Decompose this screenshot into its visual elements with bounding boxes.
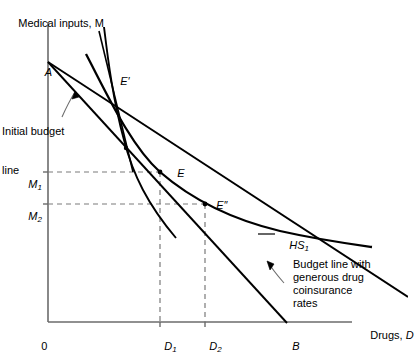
initial-budget-annotation-line1: Initial budget [2,125,64,138]
x-axis-title-var: D [403,329,414,341]
point-a-label: A [33,53,52,92]
initial-budget-leader-group [62,91,79,117]
point-e-prime-marks: ′ [128,75,131,87]
point-b-text: B [292,340,299,352]
generous-budget-annotation-line4: rates [293,297,401,310]
point-e-text: E [177,167,184,179]
y-axis-title-text: Medical inputs, M [18,17,104,29]
y-tick-label-m2: M2 [16,197,42,239]
generous-budget-annotation: Budget line with generous drug coinsuran… [293,258,401,310]
point-e-label: E [165,154,185,193]
x-tick-d1-sub: 1 [172,345,176,354]
point-e-double-prime-marks: ″ [224,199,228,211]
indifference-curve-hs0 [104,27,176,238]
point-e-double-prime-label: E″ [204,186,228,225]
point-e-prime-text: E [120,75,127,87]
point-b-label: B [280,327,300,356]
point-a-text: A [45,66,52,78]
generous-budget-annotation-line3: coinsurance [293,284,401,297]
marker-point-e [158,170,163,175]
reference-lines-group [48,172,205,322]
y-tick-m2-sub: 2 [37,215,41,224]
x-tick-label-d1: D1 [152,327,177,356]
y-tick-m1-sub: 1 [37,183,41,192]
origin-label: 0 [29,327,47,356]
point-e-double-prime-text: E [216,199,223,211]
x-tick-d1-base: D [164,340,172,352]
generous-budget-annotation-line2: generous drug [293,271,401,284]
origin-text: 0 [41,340,47,352]
marker-point-e-prime [124,146,128,150]
hs1-sub: 1 [305,244,309,253]
x-tick-label-d2: D2 [197,327,222,356]
y-axis-title: Medical inputs, M [6,4,104,43]
x-axis-title: Drugs, D [358,316,414,355]
generous-budget-annotation-line1: Budget line with [293,258,401,271]
tick-marks-group [43,172,205,327]
hs1-base: HS [289,239,304,251]
y-title-leader [132,16,142,30]
point-e-prime-label: E′ [108,62,130,101]
x-tick-d2-sub: 2 [217,345,221,354]
x-tick-d2-base: D [209,340,217,352]
x-axis-title-main: Drugs, [370,329,402,341]
